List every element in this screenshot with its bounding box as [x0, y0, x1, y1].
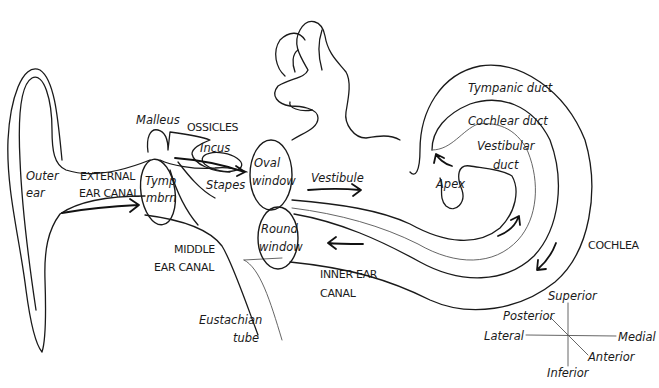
label-middle-ear-canal-2: EAR CANAL	[154, 261, 215, 274]
label-outer-ear: Outer	[26, 169, 60, 183]
label-vestibular-duct: Vestibular	[477, 139, 536, 153]
label-vestibular-duct-2: duct	[493, 158, 519, 172]
label-incus: Incus	[200, 141, 230, 155]
label-tympanic-duct: Tympanic duct	[468, 81, 553, 95]
compass-anterior: Anterior	[587, 350, 636, 364]
compass-medial: Medial	[618, 330, 657, 344]
cochlea-down-arrow	[537, 243, 556, 270]
label-oval-window-2: window	[252, 174, 296, 188]
label-cochlear-duct: Cochlear duct	[468, 114, 548, 128]
compass-posterior: Posterior	[503, 309, 556, 323]
label-vestibule: Vestibule	[311, 171, 364, 185]
label-eustachian-tube: Eustachian	[199, 313, 262, 327]
label-external-ear-canal-2: EAR CANAL	[79, 187, 140, 200]
eustachian-tube-inner	[244, 260, 282, 340]
label-inner-ear-canal: INNER EAR	[320, 268, 378, 281]
label-ossicles: OSSICLES	[187, 121, 239, 134]
label-malleus: Malleus	[136, 113, 180, 127]
semicircular-canals	[275, 21, 400, 140]
return-arrow	[328, 237, 363, 249]
compass-inferior: Inferior	[547, 366, 590, 380]
ear-anatomy-diagram: Outer ear EXTERNAL EAR CANAL Tymp mbrn M…	[0, 0, 659, 388]
label-inner-ear-canal-2: CANAL	[320, 287, 357, 300]
vestibule-arrow	[308, 184, 361, 196]
label-stapes: Stapes	[206, 178, 245, 192]
label-cochlea: COCHLEA	[588, 239, 640, 252]
label-apex: Apex	[435, 177, 465, 191]
apex-arrow	[434, 154, 452, 166]
label-middle-ear-canal: MIDDLE	[174, 243, 215, 256]
label-tympanic-membrane-2: mbrn	[146, 191, 177, 205]
compass-lateral: Lateral	[484, 329, 525, 343]
label-eustachian-tube-2: tube	[233, 331, 259, 345]
compass-superior: Superior	[548, 289, 598, 303]
label-round-window: Round	[261, 222, 299, 236]
label-external-ear-canal: EXTERNAL	[80, 170, 136, 183]
label-oval-window: Oval	[254, 156, 281, 170]
label-tympanic-membrane: Tymp	[145, 174, 176, 188]
round-window	[258, 207, 298, 269]
label-round-window-2: window	[259, 240, 303, 254]
label-outer-ear-2: ear	[26, 186, 46, 200]
